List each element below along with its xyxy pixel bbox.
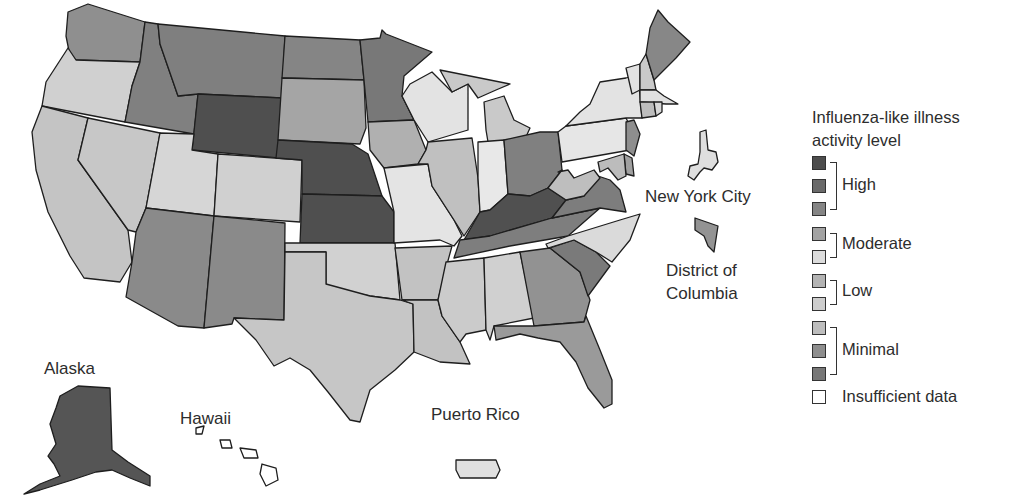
state-PR [456, 460, 500, 478]
legend-swatch-minimal-1 [812, 321, 826, 335]
state-MT [158, 24, 285, 98]
label-hawaii: Hawaii [180, 408, 231, 429]
bracket-minimal [830, 327, 837, 375]
bracket-high [830, 162, 837, 210]
legend-swatch-low-1 [812, 274, 826, 288]
label-new-york-city: New York City [645, 186, 751, 207]
legend-swatch-minimal-2 [812, 344, 826, 358]
legend-swatch-insufficient [812, 390, 826, 404]
state-WY [192, 94, 282, 158]
state-MD [598, 154, 626, 180]
state-WA [66, 4, 145, 62]
legend-swatch-moderate-2 [812, 250, 826, 264]
state-FL [494, 316, 612, 408]
state-NJ [626, 120, 640, 156]
legend-label-insufficient: Insufficient data [842, 387, 957, 406]
legend-swatch-high-3 [812, 202, 826, 216]
legend-swatch-moderate-1 [812, 227, 826, 241]
state-IA [368, 120, 426, 168]
legend-label-minimal: Minimal [842, 340, 899, 359]
label-dc-line1: District of [666, 260, 737, 281]
state-NM [204, 216, 285, 328]
state-CO [214, 154, 302, 222]
state-NYC [688, 130, 718, 180]
legend-swatch-minimal-3 [812, 367, 826, 381]
state-CT [640, 102, 656, 118]
bracket-low [830, 280, 837, 305]
legend-label-high: High [842, 175, 876, 194]
legend-swatch-low-2 [812, 297, 826, 311]
label-alaska: Alaska [44, 358, 95, 379]
state-KS [300, 194, 394, 243]
state-DC [695, 218, 718, 252]
legend-swatch-high-2 [812, 179, 826, 193]
state-ND [282, 36, 364, 80]
legend-title-line2: activity level [812, 129, 1012, 152]
state-HI-2 [220, 440, 232, 448]
legend-title-line1: Influenza-like illness [812, 106, 1012, 129]
state-ME [646, 10, 690, 80]
label-puerto-rico: Puerto Rico [431, 404, 520, 425]
label-dc-line2: Columbia [666, 283, 738, 304]
bracket-moderate [830, 233, 837, 258]
legend-label-low: Low [842, 281, 872, 300]
state-AZ [126, 208, 214, 328]
state-SD [278, 78, 366, 144]
legend-swatches: High Moderate Low Minimal Insufficient d… [812, 152, 1012, 412]
legend-swatch-high-1 [812, 156, 826, 170]
state-HI-3 [240, 448, 258, 458]
state-HI-4 [260, 464, 278, 486]
state-AK [24, 386, 150, 494]
legend: Influenza-like illness activity level Hi… [812, 106, 1012, 412]
state-RI [654, 102, 662, 116]
legend-label-moderate: Moderate [842, 234, 912, 253]
